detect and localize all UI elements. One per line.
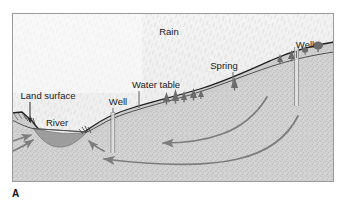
sky-light-wash [12, 13, 142, 93]
groundwater-flow-diagram: Rain Well Spring Water table Land surfac… [0, 0, 344, 204]
well-left-casing [111, 112, 114, 153]
label-water-table: Water table [132, 79, 180, 90]
label-rain: Rain [159, 26, 179, 37]
label-well-right: Well [296, 39, 314, 50]
label-well-left: Well [109, 96, 127, 107]
label-land-surface: Land surface [21, 90, 76, 101]
label-river: River [46, 117, 68, 128]
label-spring: Spring [210, 60, 237, 71]
diagram-canvas: Rain Well Spring Water table Land surfac… [0, 0, 344, 204]
panel-letter: A [12, 188, 19, 199]
